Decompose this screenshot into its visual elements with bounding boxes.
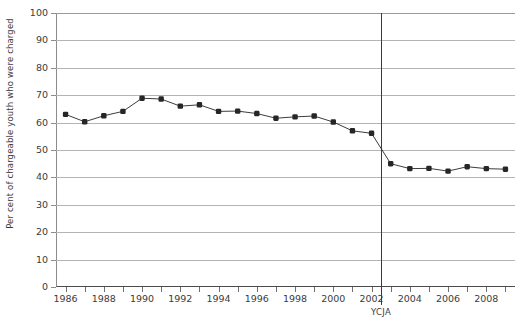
gridline <box>56 123 515 124</box>
x-axis-tick <box>295 287 296 292</box>
ycja-label: YCJA <box>351 307 411 317</box>
x-axis-tick <box>486 287 487 292</box>
x-axis-tick <box>372 287 373 292</box>
y-axis-title: Per cent of chargeable youth who were ch… <box>2 0 18 290</box>
y-axis-tick-label: 100 <box>20 8 48 18</box>
ycja-vertical-line <box>381 13 382 305</box>
y-axis-tick <box>51 177 56 178</box>
gridline <box>56 40 515 41</box>
x-axis-tick-label: 2008 <box>466 293 506 305</box>
x-axis-tick <box>199 287 200 292</box>
x-axis-tick <box>467 287 468 292</box>
y-axis-tick <box>51 95 56 96</box>
x-axis-tick <box>333 287 334 292</box>
x-axis-tick <box>505 287 506 292</box>
x-axis-tick-label: 2006 <box>428 293 468 305</box>
gridline <box>56 177 515 178</box>
y-axis-tick <box>51 13 56 14</box>
x-axis-tick <box>85 287 86 292</box>
y-axis-tick-label: 0 <box>20 282 48 292</box>
y-axis-tick-label: 70 <box>20 90 48 100</box>
x-axis-tick <box>142 287 143 292</box>
x-axis-tick-label: 2004 <box>390 293 430 305</box>
x-axis-tick <box>276 287 277 292</box>
gridline <box>56 95 515 96</box>
x-axis-tick-label: 1994 <box>199 293 239 305</box>
y-axis-tick-label: 50 <box>20 145 48 155</box>
y-axis-tick-label: 40 <box>20 172 48 182</box>
gridline <box>56 13 515 14</box>
x-axis-tick <box>448 287 449 292</box>
x-axis-tick <box>238 287 239 292</box>
x-axis-tick <box>352 287 353 292</box>
y-axis-tick <box>51 150 56 151</box>
y-axis-tick <box>51 287 56 288</box>
gridline <box>56 205 515 206</box>
y-axis-tick <box>51 260 56 261</box>
x-axis-tick-label: 2002 <box>352 293 392 305</box>
y-axis-tick-label: 60 <box>20 118 48 128</box>
y-axis-tick-label: 80 <box>20 63 48 73</box>
x-axis-tick-label: 1992 <box>160 293 200 305</box>
x-axis-tick <box>219 287 220 292</box>
x-axis-tick <box>257 287 258 292</box>
y-axis-tick-label: 20 <box>20 227 48 237</box>
gridline <box>56 260 515 261</box>
gridline <box>56 68 515 69</box>
y-axis-tick <box>51 205 56 206</box>
y-axis-tick-label: 90 <box>20 35 48 45</box>
x-axis-tick-label: 1986 <box>46 293 86 305</box>
gridline <box>56 150 515 151</box>
y-axis-tick <box>51 68 56 69</box>
x-axis-tick <box>104 287 105 292</box>
x-axis-tick <box>161 287 162 292</box>
chart-container: Per cent of chargeable youth who were ch… <box>0 0 527 333</box>
x-axis-tick <box>66 287 67 292</box>
y-axis-tick-label: 10 <box>20 255 48 265</box>
x-axis-tick-label: 1996 <box>237 293 277 305</box>
x-axis-tick <box>123 287 124 292</box>
gridline <box>56 232 515 233</box>
x-axis-tick-label: 2000 <box>313 293 353 305</box>
y-axis-tick <box>51 123 56 124</box>
y-axis-tick <box>51 232 56 233</box>
y-axis-tick <box>51 40 56 41</box>
y-axis-tick-label: 30 <box>20 200 48 210</box>
x-axis-tick-label: 1988 <box>84 293 124 305</box>
x-axis-tick-label: 1990 <box>122 293 162 305</box>
x-axis-tick <box>314 287 315 292</box>
x-axis-tick <box>180 287 181 292</box>
x-axis-tick <box>429 287 430 292</box>
x-axis-tick <box>391 287 392 292</box>
x-axis-tick <box>410 287 411 292</box>
x-axis-tick-label: 1998 <box>275 293 315 305</box>
